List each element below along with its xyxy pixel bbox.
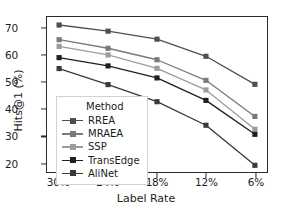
legend-item-alinet[interactable]: AliNet xyxy=(62,167,140,180)
chart-figure: Hits@1 (%) 203040506070 30%24%18%12%6% L… xyxy=(0,0,292,214)
legend-item-mraea[interactable]: MRAEA xyxy=(62,127,140,140)
legend-swatch-icon xyxy=(62,129,83,138)
y-tick-label: 60 xyxy=(5,49,18,61)
data-point-marker xyxy=(57,66,62,71)
y-tick-label: 50 xyxy=(5,76,18,88)
x-tick-mark xyxy=(206,173,207,178)
data-point-marker xyxy=(252,127,257,132)
legend-swatch-icon xyxy=(62,156,83,165)
x-tick-mark xyxy=(255,173,256,178)
legend-label: TransEdge xyxy=(88,155,140,166)
data-point-marker xyxy=(105,82,110,87)
legend: Method RREAMRAEASSPTransEdgeAliNet xyxy=(56,96,148,185)
x-axis-label: Label Rate xyxy=(0,192,292,205)
legend-swatch-icon xyxy=(62,116,83,125)
legend-label: MRAEA xyxy=(88,128,123,139)
data-point-marker xyxy=(203,98,208,103)
data-point-marker xyxy=(252,132,257,137)
data-point-marker xyxy=(57,37,62,42)
data-point-marker xyxy=(105,52,110,57)
data-point-marker xyxy=(252,82,257,87)
data-point-marker xyxy=(203,54,208,59)
y-tick-label: 70 xyxy=(5,22,18,34)
y-tick-label: 40 xyxy=(5,103,18,115)
data-point-marker xyxy=(252,163,257,168)
data-point-marker xyxy=(154,57,159,62)
legend-swatch-icon xyxy=(62,169,83,178)
data-point-marker xyxy=(154,66,159,71)
legend-rows: RREAMRAEASSPTransEdgeAliNet xyxy=(62,114,140,180)
legend-label: RREA xyxy=(88,115,115,126)
data-point-marker xyxy=(154,75,159,80)
data-point-marker xyxy=(252,114,257,119)
data-point-marker xyxy=(57,22,62,27)
legend-item-transedge[interactable]: TransEdge xyxy=(62,154,140,167)
y-tick-label: 30 xyxy=(5,130,18,142)
data-point-marker xyxy=(203,78,208,83)
legend-label: SSP xyxy=(88,141,107,152)
data-point-marker xyxy=(203,123,208,128)
legend-title: Method xyxy=(86,101,140,112)
data-point-marker xyxy=(105,46,110,51)
data-point-marker xyxy=(105,29,110,34)
legend-swatch-icon xyxy=(62,142,83,151)
legend-item-rrea[interactable]: RREA xyxy=(62,114,140,127)
legend-item-ssp[interactable]: SSP xyxy=(62,140,140,153)
data-point-marker xyxy=(154,37,159,42)
data-point-marker xyxy=(57,44,62,49)
x-tick-mark xyxy=(156,173,157,178)
data-point-marker xyxy=(105,63,110,68)
y-tick-label: 20 xyxy=(5,158,18,170)
data-point-marker xyxy=(57,55,62,60)
legend-label: AliNet xyxy=(88,168,118,179)
data-point-marker xyxy=(203,87,208,92)
data-point-marker xyxy=(154,99,159,104)
